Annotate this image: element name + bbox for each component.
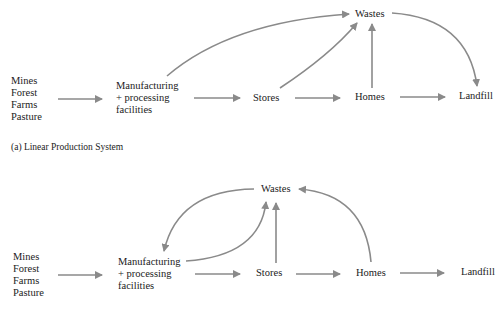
manufacturing-line-3: facilities [116, 104, 178, 116]
source-pasture-b: Pasture [13, 287, 44, 299]
manufacturing-line-2: + processing [116, 92, 178, 104]
wastes-node-b: Wastes [261, 183, 290, 195]
arrow-homes-to-wastes-b [299, 189, 371, 262]
manufacturing-line-3-b: facilities [118, 280, 180, 292]
manufacturing-line-1-b: Manufacturing [118, 256, 180, 268]
arrow-manufacturing-to-wastes-b [186, 202, 266, 261]
manufacturing-line-2-b: + processing [118, 268, 180, 280]
source-forest-b: Forest [13, 263, 44, 275]
sources-list-b: Mines Forest Farms Pasture [13, 251, 44, 299]
arrow-manufacturing-to-wastes [167, 14, 349, 76]
homes-node-a: Homes [355, 91, 385, 103]
manufacturing-line-1: Manufacturing [116, 80, 178, 92]
source-farms-b: Farms [13, 275, 44, 287]
landfill-node-a: Landfill [459, 90, 493, 102]
source-mines: Mines [11, 75, 42, 87]
arrows-layer [0, 0, 503, 313]
stores-node-b: Stores [256, 267, 282, 279]
caption-a: (a) Linear Production System [11, 142, 123, 152]
landfill-node-b: Landfill [461, 266, 495, 278]
manufacturing-node-a: Manufacturing + processing facilities [116, 80, 178, 116]
arrow-stores-to-wastes [280, 23, 357, 88]
source-mines-b: Mines [13, 251, 44, 263]
sources-list-a: Mines Forest Farms Pasture [11, 75, 42, 123]
arrow-wastes-to-manufacturing-b [164, 189, 254, 251]
arrow-wastes-to-landfill [392, 13, 477, 86]
wastes-node-a: Wastes [355, 8, 384, 20]
source-forest: Forest [11, 87, 42, 99]
manufacturing-node-b: Manufacturing + processing facilities [118, 256, 180, 292]
source-farms: Farms [11, 99, 42, 111]
homes-node-b: Homes [356, 267, 386, 279]
stores-node-a: Stores [253, 92, 279, 104]
source-pasture: Pasture [11, 111, 42, 123]
